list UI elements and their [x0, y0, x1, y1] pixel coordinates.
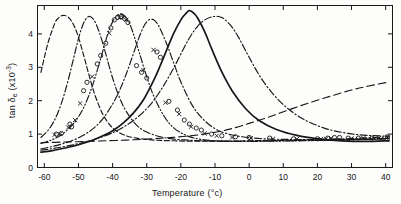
x-tick-label-10: 40 [381, 172, 390, 182]
x-tick-label-1: -50 [72, 172, 84, 182]
x-tick-label-9: 30 [347, 172, 356, 182]
marker-circle-6 [95, 62, 99, 66]
marker-circle-8 [104, 41, 108, 45]
marker-cross-11 [151, 48, 155, 52]
marker-circle-5 [85, 80, 89, 84]
x-tick-label-5: -10 [209, 172, 221, 182]
plot-frame [38, 6, 393, 168]
marker-cross-5 [90, 75, 94, 79]
marker-circle-22 [182, 118, 186, 122]
marker-circle-4 [81, 89, 85, 93]
x-tick-label-8: 20 [313, 172, 322, 182]
marker-circle-26 [209, 132, 213, 136]
marker-cross-4 [78, 101, 82, 105]
data-curve-3 [41, 14, 389, 144]
marker-cross-13 [177, 112, 181, 116]
marker-cross-6 [107, 31, 111, 35]
marker-circle-24 [194, 126, 198, 130]
x-tick-label-0: -60 [38, 172, 50, 182]
plot-canvas [0, 0, 401, 204]
x-tick-label-2: -40 [106, 172, 118, 182]
x-tick-label-7: 10 [279, 172, 288, 182]
chart-figure: tan δe (x10-3) Temperature (°c) 01234 -6… [0, 0, 401, 204]
marker-cross-16 [215, 134, 219, 138]
marker-circle-19 [158, 55, 162, 59]
marker-circle-27 [220, 134, 224, 138]
x-tick-label-3: -30 [141, 172, 153, 182]
data-curve-2 [41, 16, 389, 141]
x-tick-label-4: -20 [175, 172, 187, 182]
marker-circle-21 [175, 108, 179, 112]
x-tick-label-6: 0 [247, 172, 252, 182]
marker-circle-15 [134, 64, 138, 68]
